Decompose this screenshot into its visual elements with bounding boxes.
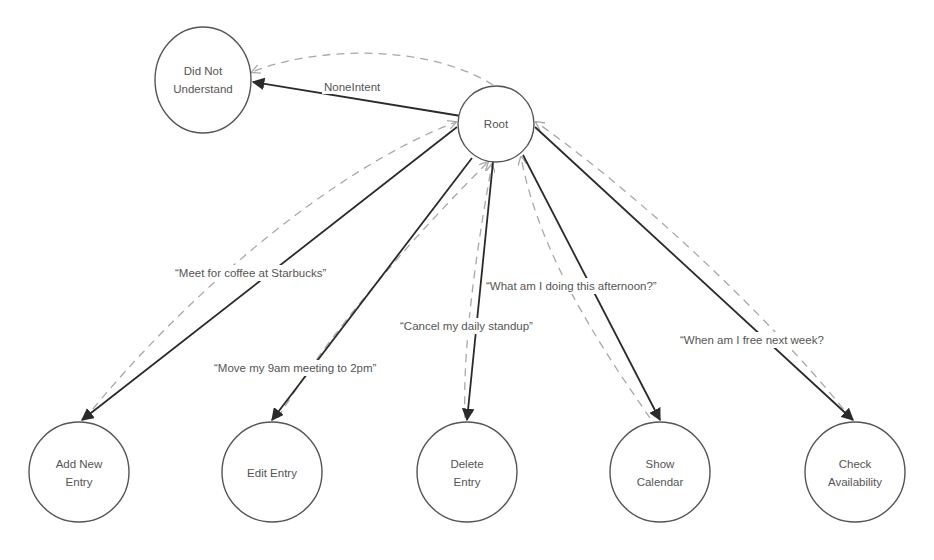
node-add-new-entry[interactable]: Add New Entry [29, 422, 129, 522]
node-did-not-understand[interactable]: Did Not Understand [155, 27, 251, 133]
node-add-new-entry-line1: Add New [56, 458, 103, 470]
node-check-availability-line1: Check [839, 458, 872, 470]
node-show-calendar-line2: Calendar [637, 476, 684, 488]
edge-label-delete-entry: “Cancel my daily standup” [400, 320, 533, 332]
node-root[interactable]: Root [458, 86, 534, 162]
node-did-not-understand-line2: Understand [173, 83, 232, 95]
edge-label-show-calendar: “What am I doing this afternoon?” [486, 280, 657, 292]
intent-flow-diagram: NoneIntent “Meet for coffee at Starbucks… [0, 0, 934, 560]
node-edit-entry-label: Edit Entry [247, 467, 297, 479]
edge-label-add-new-entry: “Meet for coffee at Starbucks” [175, 267, 326, 279]
node-check-availability-line2: Availability [828, 476, 882, 488]
node-add-new-entry-line2: Entry [66, 476, 93, 488]
edge-check-availability [535, 127, 853, 420]
node-check-availability[interactable]: Check Availability [805, 422, 905, 522]
node-root-label: Root [484, 118, 509, 130]
node-delete-entry-line1: Delete [450, 458, 483, 470]
node-delete-entry[interactable]: Delete Entry [417, 422, 517, 522]
edge-edit-entry [272, 158, 472, 420]
node-show-calendar-line1: Show [646, 458, 675, 470]
node-show-calendar[interactable]: Show Calendar [610, 422, 710, 522]
node-delete-entry-line2: Entry [454, 476, 481, 488]
node-edit-entry[interactable]: Edit Entry [222, 422, 322, 522]
edge-label-check-availability: “When am I free next week? [680, 334, 824, 346]
edge-label-edit-entry: “Move my 9am meeting to 2pm” [214, 362, 377, 374]
return-edge-edit-entry [278, 162, 488, 418]
edge-label-none-intent: NoneIntent [324, 81, 381, 93]
node-did-not-understand-line1: Did Not [184, 65, 223, 77]
